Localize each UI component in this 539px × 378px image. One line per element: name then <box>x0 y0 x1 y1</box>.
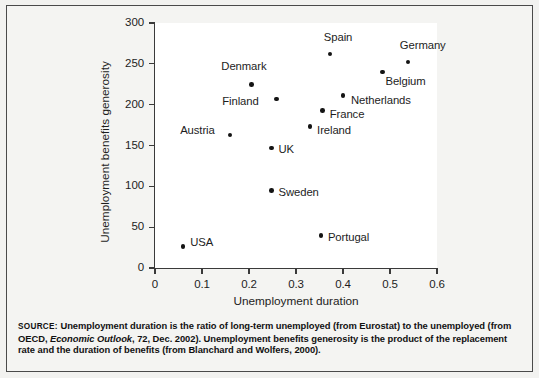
y-tick-mark <box>149 63 154 64</box>
data-point-marker <box>249 82 254 87</box>
data-point-label: France <box>330 108 365 120</box>
y-tick-mark <box>149 227 154 228</box>
data-point-label: Germany <box>400 39 446 51</box>
x-tick-mark <box>342 269 343 274</box>
data-point-marker <box>319 233 324 238</box>
data-point-marker <box>320 108 325 113</box>
data-point-marker <box>380 70 385 75</box>
x-tick-mark <box>201 269 202 274</box>
x-tick-label: 0.3 <box>276 278 316 290</box>
x-tick-mark <box>154 269 155 274</box>
x-tick-mark <box>248 269 249 274</box>
data-point-label: USA <box>190 236 213 248</box>
x-tick-label: 0 <box>135 278 175 290</box>
x-tick-label: 0.2 <box>229 278 269 290</box>
data-point-label: UK <box>279 143 295 155</box>
x-axis-label: Unemployment duration <box>155 294 437 308</box>
x-tick-label: 0.1 <box>182 278 222 290</box>
data-point-label: Denmark <box>221 60 266 72</box>
x-tick-mark <box>389 269 390 274</box>
x-tick-label: 0.4 <box>323 278 363 290</box>
y-tick-mark <box>149 22 154 23</box>
data-point-label: Sweden <box>279 186 319 198</box>
y-tick-label: 300 <box>104 16 144 28</box>
data-point-marker <box>269 146 274 151</box>
plot-panel-background <box>155 23 437 268</box>
y-tick-mark <box>149 104 154 105</box>
x-tick-mark <box>295 269 296 274</box>
x-tick-label: 0.6 <box>417 278 457 290</box>
figure-container: 050100150200250300 00.10.20.30.40.50.6 U… <box>0 0 539 378</box>
data-point-label: Spain <box>324 31 352 43</box>
data-point-label: Austria <box>180 124 214 136</box>
data-point-marker <box>269 188 274 193</box>
y-tick-mark <box>149 186 154 187</box>
source-keyword: SOURCE: <box>18 322 58 331</box>
y-tick-mark <box>149 145 154 146</box>
data-point-label: Belgium <box>385 75 425 87</box>
y-axis-label: Unemployment benefits generosity <box>98 42 112 262</box>
y-axis-line <box>154 22 155 269</box>
data-point-label: Finland <box>222 95 258 107</box>
y-tick-label: 0 <box>104 261 144 273</box>
source-italic-title: Economic Outlook <box>50 333 132 344</box>
source-note: SOURCE: Unemployment duration is the rat… <box>18 320 518 356</box>
data-point-label: Portugal <box>328 231 369 243</box>
data-point-marker <box>274 97 279 102</box>
data-point-label: Netherlands <box>351 94 411 106</box>
y-tick-mark <box>149 267 154 268</box>
data-point-label: Ireland <box>317 124 351 136</box>
x-tick-label: 0.5 <box>370 278 410 290</box>
x-tick-mark <box>436 269 437 274</box>
